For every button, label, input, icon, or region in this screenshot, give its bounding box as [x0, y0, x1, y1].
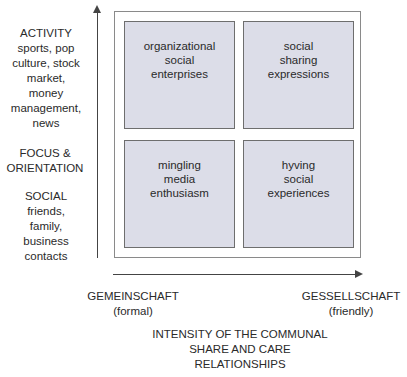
quadrant-label: social sharing expressions: [268, 39, 329, 81]
y-axis-line: [97, 8, 98, 258]
quadrant-top-left: organizational social enterprises: [124, 21, 235, 129]
quadrant-label: hyving social experiences: [267, 158, 329, 200]
x-axis-line: [113, 274, 357, 275]
quadrant-bottom-right: hyving social experiences: [243, 140, 354, 248]
quadrant-bottom-left: mingling media enthusiasm: [124, 140, 235, 248]
y-axis-bottom-label: SOCIAL friends, family, business contact…: [2, 189, 90, 264]
x-axis-left-label: GEMEINSCHAFT (formal): [78, 289, 188, 319]
y-axis-arrow-icon: [93, 5, 101, 13]
quadrant-label: organizational social enterprises: [144, 39, 216, 81]
x-axis-title: INTENSITY OF THE COMMUNAL SHARE AND CARE…: [140, 327, 340, 372]
quadrant-top-right: social sharing expressions: [243, 21, 354, 129]
y-axis-top-label: ACTIVITY sports, pop culture, stock mark…: [2, 26, 90, 131]
quadrant-label: mingling media enthusiasm: [150, 158, 209, 200]
x-axis-arrow-icon: [355, 270, 363, 278]
x-axis-right-label: GESSELLSCHAFT (friendly): [295, 289, 407, 319]
y-axis-middle-label: FOCUS & ORIENTATION: [0, 146, 90, 176]
